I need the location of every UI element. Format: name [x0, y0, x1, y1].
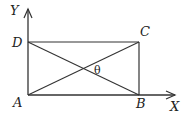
x-axis — [28, 91, 175, 99]
x-axis-label: X — [169, 99, 180, 114]
diagonals — [28, 42, 139, 95]
point-b-label: B — [135, 96, 146, 111]
point-c-label: C — [140, 24, 150, 39]
point-a-label: A — [12, 95, 22, 110]
y-axis-label: Y — [10, 3, 20, 18]
angle-theta-label: θ — [94, 64, 101, 77]
point-d-label: D — [11, 35, 23, 50]
y-axis — [24, 9, 32, 95]
rectangle-diagram: Y X D A B C θ — [0, 0, 189, 116]
